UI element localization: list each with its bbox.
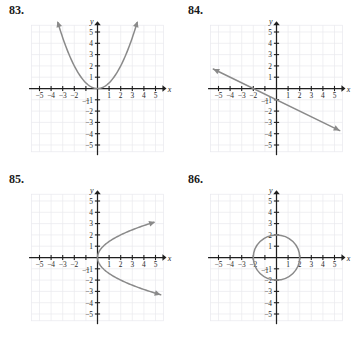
y-axis-label: y [268,186,273,195]
axes: −5−4−3−2−11234554321−1−2−3−4−5xy [208,17,351,155]
x-tick-label: 3 [309,91,313,100]
y-tick-label: 5 [268,28,272,37]
y-tick-label: −5 [85,310,93,319]
y-axis-arrow [94,21,100,25]
y-tick-label: −1 [85,265,93,274]
x-tick-label: −5 [215,91,223,100]
x-tick-label: 5 [154,260,158,269]
y-axis-arrow [273,21,279,25]
x-tick-label: 4 [321,91,325,100]
x-tick-label: −3 [59,91,67,100]
y-tick-label: 1 [268,73,272,82]
x-tick-label: −5 [215,260,223,269]
y-axis-label: y [89,17,94,26]
y-tick-label: 4 [268,208,272,217]
x-tick-label: 5 [333,91,337,100]
x-tick-label: 3 [309,260,313,269]
x-tick-label: −5 [36,260,44,269]
y-tick-label: 5 [89,28,93,37]
y-tick-label: −4 [264,130,272,139]
x-tick-label: −3 [238,91,246,100]
y-axis-label: y [268,17,273,26]
x-axis-label: x [167,85,172,94]
y-tick-label: −4 [85,299,93,308]
graph-panel-84: 84. −5−4−3−2−11234554321−1−2−3−4−5xy [179,0,358,170]
x-tick-label: 4 [142,260,146,269]
x-tick-label: −4 [47,260,55,269]
y-tick-label: −5 [264,141,272,150]
x-tick-label: −2 [70,91,78,100]
graph-svg-83: −5−4−3−2−11234554321−1−2−3−4−5xy [18,14,176,164]
x-tick-label: 2 [298,91,302,100]
y-tick-label: −5 [85,141,93,150]
graph-panel-83: 83. −5−4−3−2−11234554321−1−2−3−4−5xy [0,0,179,170]
y-tick-label: −3 [85,287,93,296]
axes: −5−4−3−2−11234554321−1−2−3−4−5xy [29,186,172,324]
axes: −5−4−3−2−11234554321−1−2−3−4−5xy [29,17,172,155]
y-tick-label: 4 [89,39,93,48]
y-tick-label: 3 [89,219,93,228]
x-tick-label: 2 [119,91,123,100]
x-axis-arrow [162,85,166,91]
y-tick-label: 1 [89,73,93,82]
y-axis-label: y [89,186,94,195]
y-tick-label: −5 [264,310,272,319]
x-tick-label: 3 [130,91,134,100]
x-tick-label: −2 [70,260,78,269]
x-tick-label: −3 [59,260,67,269]
y-tick-label: 4 [268,39,272,48]
y-tick-label: 5 [89,197,93,206]
axes: −5−4−3−2−11234554321−1−2−3−4−5xy [208,186,351,324]
x-tick-label: 1 [286,91,290,100]
worksheet-sheet: 83. −5−4−3−2−11234554321−1−2−3−4−5xy 84.… [0,0,358,339]
y-tick-label: 3 [89,50,93,59]
x-axis-label: x [346,254,351,263]
x-tick-label: 5 [333,260,337,269]
graph-svg-86: −5−4−3−2−11234554321−1−2−3−4−5xy [197,183,355,333]
coordinate-plane-85: −5−4−3−2−11234554321−1−2−3−4−5xy [18,183,176,333]
y-tick-label: −2 [85,107,93,116]
graph-panel-85: 85. −5−4−3−2−11234554321−1−2−3−4−5xy [0,169,179,339]
x-axis-label: x [346,85,351,94]
y-tick-label: −1 [85,96,93,105]
graph-svg-85: −5−4−3−2−11234554321−1−2−3−4−5xy [18,183,176,333]
x-axis-arrow [162,254,166,260]
y-axis-arrow [273,190,279,194]
y-tick-label: 2 [89,62,93,71]
curve-arrowhead [57,21,63,28]
x-tick-label: 3 [130,260,134,269]
y-tick-label: −1 [264,265,272,274]
x-tick-label: 4 [142,91,146,100]
y-tick-label: −2 [264,107,272,116]
y-tick-label: 2 [89,231,93,240]
y-tick-label: 1 [89,242,93,251]
coordinate-plane-84: −5−4−3−2−11234554321−1−2−3−4−5xy [197,14,355,164]
curve-arrowhead [133,21,139,28]
y-tick-label: 2 [268,62,272,71]
y-tick-label: −3 [264,118,272,127]
x-tick-label: 1 [107,91,111,100]
curve-parabola-right [98,221,161,296]
x-tick-label: 5 [154,91,158,100]
y-tick-label: 3 [268,50,272,59]
y-tick-label: 5 [268,197,272,206]
y-tick-label: −2 [85,276,93,285]
y-axis-arrow [94,190,100,194]
y-tick-label: −3 [264,287,272,296]
x-tick-label: −5 [36,91,44,100]
coordinate-plane-86: −5−4−3−2−11234554321−1−2−3−4−5xy [197,183,355,333]
x-axis-arrow [341,85,345,91]
y-tick-label: 4 [89,208,93,217]
x-tick-label: −2 [249,91,257,100]
x-tick-label: −4 [226,91,234,100]
x-tick-label: −3 [238,260,246,269]
y-tick-label: −3 [85,118,93,127]
x-axis-arrow [341,254,345,260]
x-tick-label: 1 [286,260,290,269]
coordinate-plane-83: −5−4−3−2−11234554321−1−2−3−4−5xy [18,14,176,164]
x-axis-label: x [167,254,172,263]
x-tick-label: −4 [226,260,234,269]
graph-svg-84: −5−4−3−2−11234554321−1−2−3−4−5xy [197,14,355,164]
y-tick-label: −4 [85,130,93,139]
graph-panel-86: 86. −5−4−3−2−11234554321−1−2−3−4−5xy [179,169,358,339]
